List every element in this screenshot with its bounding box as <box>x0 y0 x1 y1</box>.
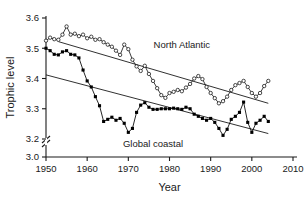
data-point <box>65 25 68 28</box>
x-tick-label: 1990 <box>200 163 221 174</box>
data-point <box>123 122 126 125</box>
data-point <box>221 134 224 137</box>
data-point <box>246 121 249 124</box>
data-point <box>82 68 85 71</box>
data-point <box>221 99 224 102</box>
data-point <box>151 108 154 111</box>
data-point <box>143 64 146 67</box>
data-point <box>77 34 80 37</box>
data-point <box>118 53 121 56</box>
data-point <box>193 113 196 116</box>
data-point <box>110 45 113 48</box>
y-tick-label: 3.2 <box>26 133 39 144</box>
data-point <box>160 107 163 110</box>
data-point <box>123 43 126 46</box>
data-point <box>205 85 208 88</box>
data-point <box>238 81 241 84</box>
y-tick-label: 3.5 <box>26 43 39 54</box>
data-point <box>184 106 187 109</box>
data-point <box>209 117 212 120</box>
data-point <box>69 53 72 56</box>
x-tick-label: 1950 <box>35 163 56 174</box>
data-point <box>188 82 191 85</box>
data-point <box>189 107 192 110</box>
data-point <box>85 37 88 40</box>
data-point <box>242 79 245 82</box>
data-point <box>180 90 183 93</box>
x-tick-label: 1980 <box>159 163 180 174</box>
data-point <box>156 108 159 111</box>
data-point <box>263 115 266 118</box>
data-point <box>234 83 237 86</box>
data-point <box>197 115 200 118</box>
data-point <box>102 41 105 44</box>
data-point <box>106 118 109 121</box>
data-point <box>135 111 138 114</box>
data-point <box>90 85 93 88</box>
series-annotation-2: Global coastal <box>123 138 183 149</box>
data-point <box>242 101 245 104</box>
series-annotation-1: North Atlantic <box>154 39 211 50</box>
y-tick-label: 3.6 <box>26 12 39 23</box>
data-point <box>176 88 179 91</box>
data-point <box>53 53 56 56</box>
data-point <box>147 106 150 109</box>
data-point <box>258 91 261 94</box>
data-point <box>267 79 270 82</box>
data-point <box>135 65 138 68</box>
data-point <box>143 101 146 104</box>
trophic-level-chart: 3.03.23.33.43.53.61950196019701980199020… <box>0 0 305 205</box>
data-point <box>48 36 51 39</box>
data-point <box>57 38 60 41</box>
data-point <box>225 95 228 98</box>
data-point <box>267 120 270 123</box>
data-point <box>217 127 220 130</box>
data-point <box>184 86 187 89</box>
data-point <box>168 91 171 94</box>
data-point <box>106 43 109 46</box>
y-tick-label: 3.3 <box>26 103 39 114</box>
data-point <box>201 117 204 120</box>
data-point <box>209 91 212 94</box>
y-tick-label: 3.0 <box>26 151 39 162</box>
data-point <box>147 72 150 75</box>
data-point <box>53 37 56 40</box>
data-point <box>98 37 101 40</box>
data-point <box>176 107 179 110</box>
data-point <box>102 120 105 123</box>
x-tick-label: 2010 <box>282 163 303 174</box>
data-point <box>98 104 101 107</box>
data-point <box>254 122 257 125</box>
data-point <box>65 49 68 52</box>
x-tick-label: 2000 <box>241 163 262 174</box>
data-point <box>114 49 117 52</box>
data-point <box>230 118 233 121</box>
x-axis-title: Year <box>158 181 181 193</box>
data-point <box>73 53 76 56</box>
data-point <box>151 79 154 82</box>
data-point <box>57 53 60 56</box>
data-point <box>254 95 257 98</box>
data-point <box>81 33 84 36</box>
data-point <box>164 96 167 99</box>
data-point <box>139 69 142 72</box>
data-point <box>164 107 167 110</box>
data-point <box>77 56 80 59</box>
data-point <box>114 119 117 122</box>
data-point <box>160 93 163 96</box>
data-point <box>226 128 229 131</box>
data-point <box>172 90 175 93</box>
y-axis-title: Trophic level <box>4 57 16 119</box>
x-tick-label: 1970 <box>118 163 139 174</box>
data-point <box>90 35 93 38</box>
data-point <box>197 74 200 77</box>
data-point <box>127 47 130 50</box>
data-point <box>73 32 76 35</box>
data-point <box>131 127 134 130</box>
data-point <box>180 108 183 111</box>
data-point <box>250 91 253 94</box>
y-tick-label: 3.4 <box>26 73 39 84</box>
data-point <box>110 116 113 119</box>
data-point <box>213 121 216 124</box>
data-point <box>238 111 241 114</box>
